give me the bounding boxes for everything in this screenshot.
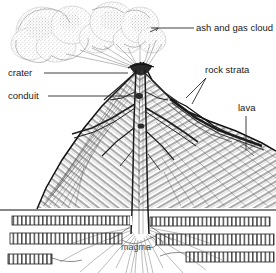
label-lava: lava <box>238 102 256 113</box>
label-crater: crater <box>8 67 32 78</box>
label-conduit: conduit <box>8 90 39 101</box>
volcano-cross-section-illustration: ash and gas cloud crater conduit rock st… <box>0 0 276 273</box>
label-ash-and-gas-cloud: ash and gas cloud <box>196 22 273 33</box>
label-magma: magma <box>121 242 151 252</box>
label-rock-strata: rock strata <box>205 64 250 75</box>
volcano-diagram: ash and gas cloud crater conduit rock st… <box>0 0 276 273</box>
